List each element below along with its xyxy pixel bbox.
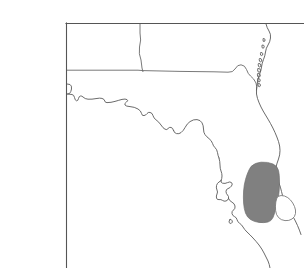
map-figure <box>0 0 304 268</box>
map-background <box>0 0 304 268</box>
shaded-region-primary[interactable] <box>243 162 279 222</box>
map-canvas <box>0 0 304 268</box>
